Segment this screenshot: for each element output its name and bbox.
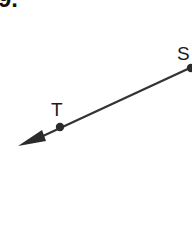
point-t-dot [56,123,64,131]
point-t-label: T [51,99,63,120]
ray-diagram: S T [0,0,192,233]
point-s-dot [187,64,192,72]
point-s-label: S [177,43,190,64]
ray-arrowhead [18,130,46,146]
